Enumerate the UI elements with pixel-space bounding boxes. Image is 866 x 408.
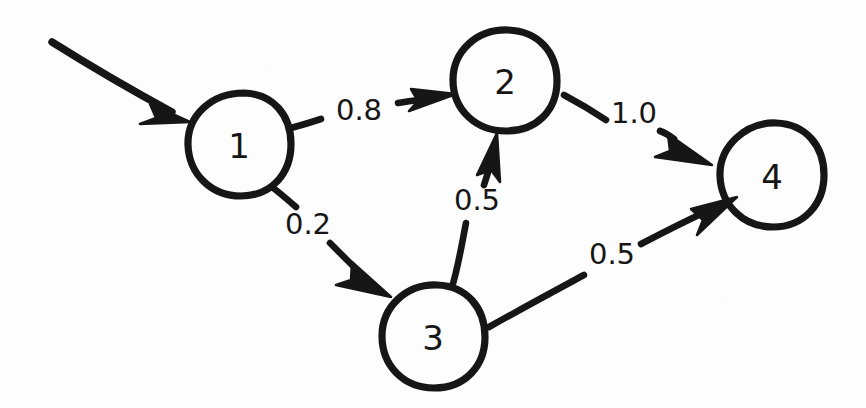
edge-label-1-to-3: 0.2 — [285, 207, 331, 241]
edge-3-to-4-shaft-left — [489, 275, 584, 327]
edge-3-to-2-shaft-lower — [452, 223, 466, 287]
edge-3-to-4-shaft-right — [641, 213, 703, 244]
node-3-label: 3 — [422, 318, 444, 358]
node-4-label: 4 — [761, 157, 783, 197]
node-1-label: 1 — [228, 126, 250, 166]
edge-1-to-3-shaft-lower — [330, 243, 352, 265]
edge-label-3-to-2: 0.5 — [454, 183, 500, 217]
node-1[interactable]: 1 — [188, 93, 291, 196]
edge-1-to-3: 0.2 — [272, 187, 391, 297]
start-arrow-shaft — [52, 42, 172, 112]
edge-label-1-to-2: 0.8 — [336, 93, 382, 127]
edge-2-to-4-shaft-left — [564, 95, 606, 120]
diagram-canvas: 0.8 0.2 0.5 1.0 0.5 — [0, 0, 866, 408]
edge-2-to-4-arrow-head — [655, 134, 712, 165]
node-2-label: 2 — [494, 62, 516, 102]
edge-label-2-to-4: 1.0 — [611, 96, 657, 130]
edge-label-3-to-4: 0.5 — [589, 237, 635, 271]
edge-1-to-2-arrow-head — [409, 89, 456, 111]
edge-1-to-2: 0.8 — [291, 89, 456, 128]
edge-1-to-3-shaft-upper — [272, 187, 296, 207]
edge-2-to-4: 1.0 — [564, 95, 712, 165]
edge-3-to-2: 0.5 — [452, 133, 500, 287]
edge-1-to-2-shaft-left — [291, 119, 321, 128]
edge-1-to-3-arrow-head — [336, 262, 391, 297]
node-2[interactable]: 2 — [453, 30, 557, 131]
node-4[interactable]: 4 — [720, 123, 824, 227]
edge-3-to-4: 0.5 — [489, 197, 737, 327]
state-diagram: 0.8 0.2 0.5 1.0 0.5 — [0, 0, 866, 408]
start-arrow — [52, 42, 190, 124]
node-3[interactable]: 3 — [382, 285, 485, 388]
